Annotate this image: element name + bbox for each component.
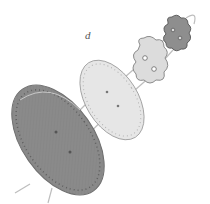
hole-icon xyxy=(117,105,120,108)
hole-icon xyxy=(106,91,109,94)
dark-flower-button xyxy=(164,15,191,51)
thread xyxy=(48,188,52,203)
hole-icon xyxy=(171,28,175,32)
exploded-view-illustration xyxy=(0,0,210,204)
hole-icon xyxy=(152,67,157,72)
hole-icon xyxy=(178,36,182,40)
hole-icon xyxy=(55,131,58,134)
light-flower-button xyxy=(133,36,168,83)
hole-icon xyxy=(69,151,72,154)
hole-icon xyxy=(143,56,148,61)
thread xyxy=(15,184,30,193)
